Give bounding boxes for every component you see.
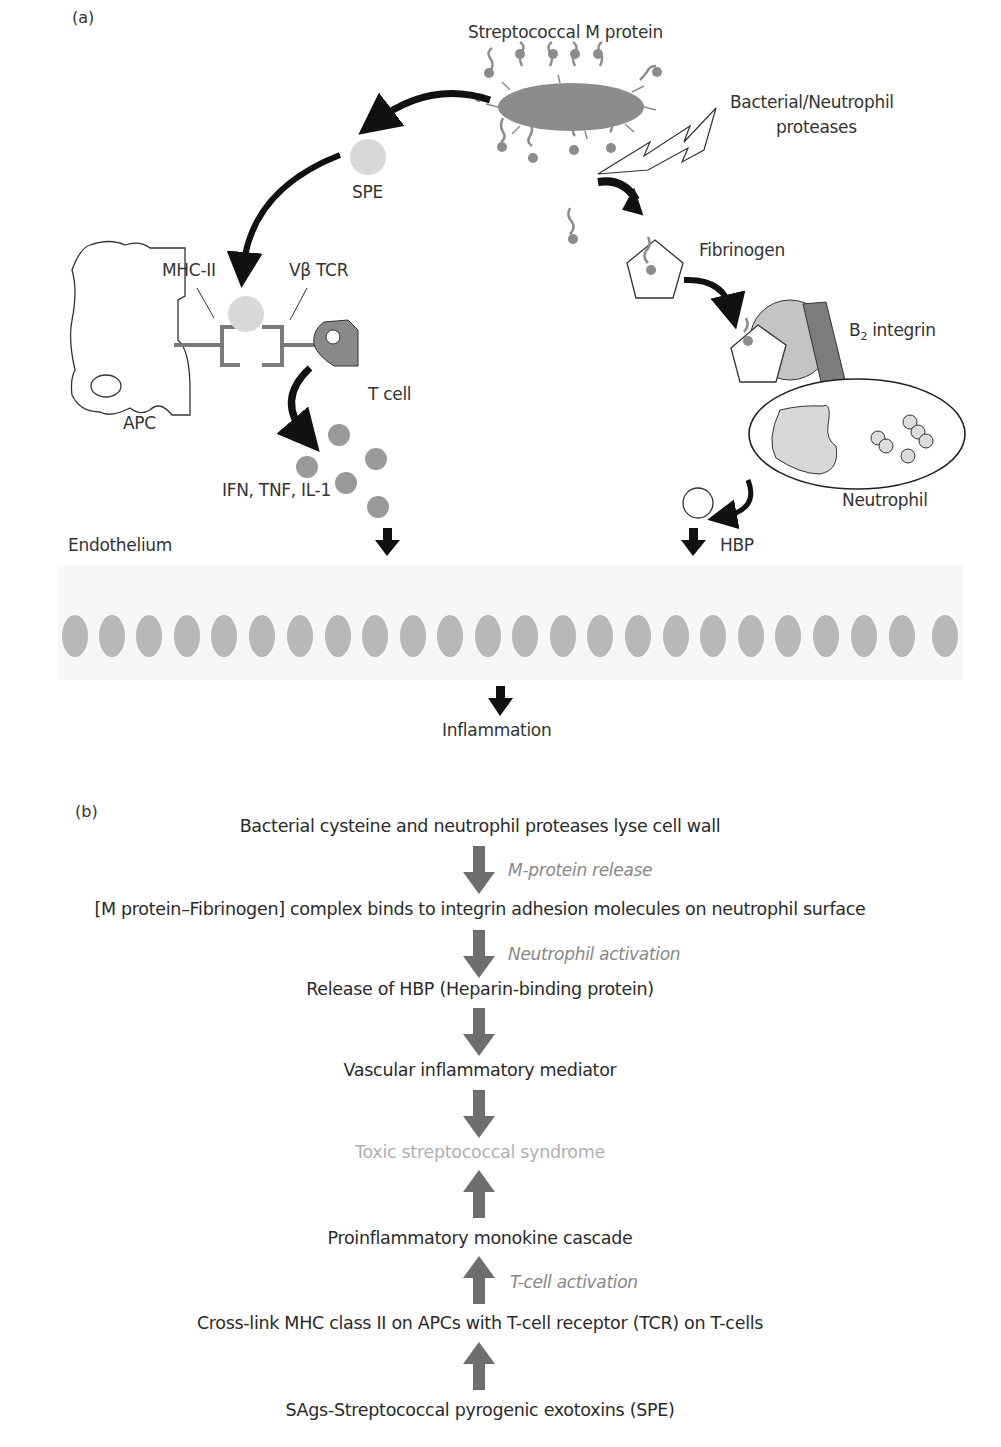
endothelium-label: Endothelium — [68, 535, 172, 555]
flow-step-4: Vascular inflammatory mediator — [0, 1060, 960, 1080]
fibrinogen-label: Fibrinogen — [699, 240, 785, 260]
arrow-down-icon — [462, 930, 496, 980]
arrow-up-icon — [462, 1256, 496, 1306]
flow-step-3: Release of HBP (Heparin-binding protein) — [0, 979, 960, 999]
arrow-down-icon — [462, 1090, 496, 1140]
mhc-label: MHC-II — [162, 260, 216, 280]
arrow-down-icon — [462, 1008, 496, 1058]
annotation-m-protein-release: M-protein release — [508, 860, 652, 880]
flow-step-2: [M protein–Fibrinogen] complex binds to … — [0, 899, 960, 919]
apc-label: APC — [123, 413, 156, 433]
flow-step-6: Proinflammatory monokine cascade — [0, 1228, 960, 1248]
spe-label: SPE — [352, 182, 383, 202]
spe-toxin-icon — [350, 139, 386, 175]
bacterium-icon — [476, 42, 662, 163]
flow-outcome-tss: Toxic streptococcal syndrome — [0, 1142, 960, 1162]
proteases-label-line2: proteases — [776, 117, 857, 137]
annotation-neutrophil-activation: Neutrophil activation — [508, 944, 680, 964]
hbp-icon — [683, 488, 713, 518]
tcr-label: Vβ TCR — [289, 260, 348, 280]
tcell-label: T cell — [368, 384, 411, 404]
flow-step-7: Cross-link MHC class II on APCs with T-c… — [0, 1313, 960, 1333]
integrin-label: B2 integrin — [849, 320, 936, 343]
mhc-tcr-complex — [174, 327, 315, 365]
neutrophil-label: Neutrophil — [842, 490, 928, 510]
integrin-label-suffix: integrin — [867, 320, 936, 340]
proteases-label-line1: Bacterial/Neutrophil — [730, 92, 894, 112]
arrow-up-icon — [462, 1342, 496, 1392]
flow-step-8: SAgs-Streptococcal pyrogenic exotoxins (… — [0, 1400, 960, 1420]
inflammation-label: Inflammation — [442, 720, 551, 740]
integrin-label-b: B — [849, 320, 860, 340]
arrow-up-icon — [462, 1170, 496, 1220]
m-protein-label: Streptococcal M protein — [468, 22, 663, 42]
flow-step-1: Bacterial cysteine and neutrophil protea… — [0, 816, 960, 836]
annotation-tcell-activation: T-cell activation — [510, 1272, 638, 1292]
cytokine-icons — [296, 424, 389, 518]
cytokines-label: IFN, TNF, IL-1 — [222, 480, 331, 500]
hbp-label: HBP — [720, 535, 754, 555]
arrow-down-icon — [462, 846, 496, 896]
